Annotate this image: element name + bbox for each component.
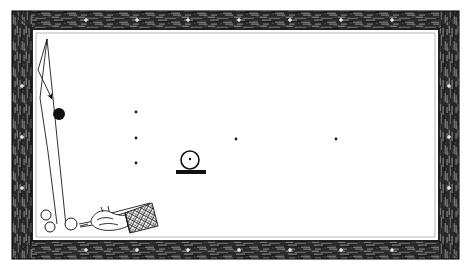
table-spot: [135, 111, 138, 114]
stand-base: [176, 170, 206, 174]
illustration-canvas: [0, 0, 471, 269]
corner-ball: [65, 218, 77, 230]
corner-ball: [41, 210, 51, 220]
stand-ball-center-dot: [189, 158, 191, 160]
table-spot: [335, 138, 338, 141]
billiard-table-illustration: [0, 0, 471, 269]
table-spot: [135, 162, 138, 165]
table-spot: [135, 137, 138, 140]
cloth-surface: [33, 30, 438, 240]
playfield: [33, 30, 438, 240]
corner-ball: [45, 222, 55, 232]
object-ball: [53, 108, 65, 120]
table-spot: [235, 138, 238, 141]
